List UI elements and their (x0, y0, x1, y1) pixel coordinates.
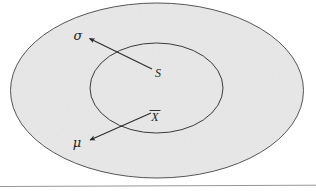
page-baseline-rule (0, 185, 316, 186)
label-xbar: X (150, 110, 159, 124)
label-sigma: σ (74, 28, 84, 43)
population-region-texture (11, 4, 303, 178)
figure-container: σ S X μ (0, 0, 316, 191)
label-s: S (155, 66, 161, 80)
diagram-canvas: σ S X μ (0, 0, 316, 191)
label-mu: μ (73, 135, 81, 150)
